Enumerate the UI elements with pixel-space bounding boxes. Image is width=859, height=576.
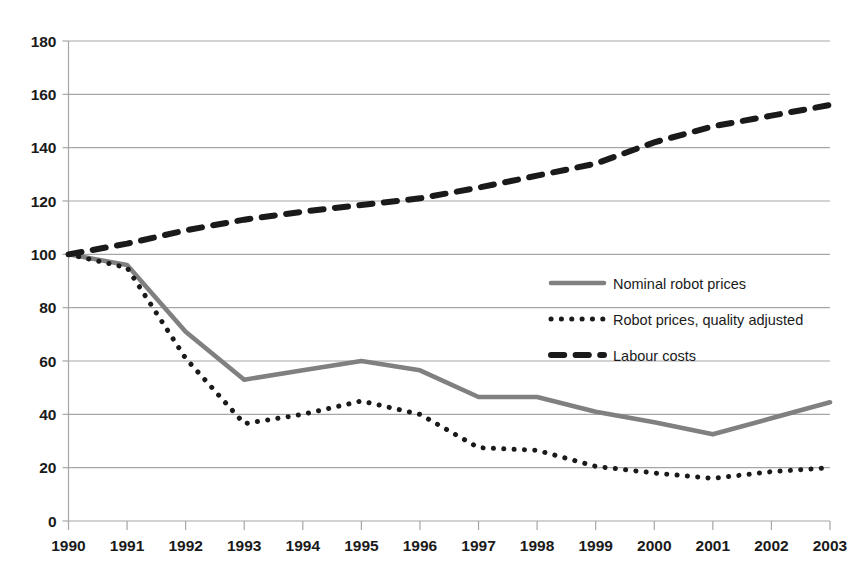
x-axis-tick-label: 2001 bbox=[696, 537, 731, 554]
legend-item-label: Robot prices, quality adjusted bbox=[613, 312, 803, 328]
x-axis-tick-label: 1995 bbox=[344, 537, 379, 554]
x-axis-tick-label: 2002 bbox=[754, 537, 788, 554]
x-axis-tick-label: 1992 bbox=[168, 537, 202, 554]
x-axis-tick-label: 2000 bbox=[637, 537, 671, 554]
x-axis-tick-label: 1999 bbox=[578, 537, 613, 554]
x-axis-tick-label: 1991 bbox=[110, 537, 145, 554]
x-axis-tick-label: 1993 bbox=[227, 537, 262, 554]
x-axis-tick-label: 1996 bbox=[403, 537, 438, 554]
y-axis-tick-label: 120 bbox=[31, 193, 57, 210]
y-axis-tick-label: 180 bbox=[31, 33, 57, 50]
y-axis-tick-labels: 020406080100120140160180 bbox=[31, 33, 57, 530]
series-line-3 bbox=[69, 105, 831, 254]
legend-item-label: Labour costs bbox=[613, 348, 696, 364]
x-axis-tick-label: 2003 bbox=[813, 537, 848, 554]
y-axis-tick-label: 20 bbox=[39, 459, 56, 476]
x-axis-tick-label: 1994 bbox=[286, 537, 321, 554]
data-series bbox=[69, 105, 831, 478]
x-axis-tick-label: 1997 bbox=[461, 537, 495, 554]
y-axis-tick-label: 100 bbox=[31, 246, 57, 263]
y-axis-tick-label: 80 bbox=[39, 299, 56, 316]
line-chart: 020406080100120140160180 199019911992199… bbox=[0, 0, 859, 576]
y-axis-tick-marks bbox=[63, 41, 69, 521]
y-axis-tick-label: 60 bbox=[39, 353, 56, 370]
y-axis-tick-label: 140 bbox=[31, 139, 57, 156]
y-axis-tick-label: 40 bbox=[39, 406, 56, 423]
x-axis-tick-labels: 1990199119921993199419951996199719981999… bbox=[51, 537, 847, 554]
y-axis-tick-label: 0 bbox=[48, 513, 57, 530]
chart-legend: Nominal robot pricesRobot prices, qualit… bbox=[551, 276, 803, 364]
chart-container: 020406080100120140160180 199019911992199… bbox=[0, 0, 859, 576]
legend-item-label: Nominal robot prices bbox=[613, 276, 746, 292]
x-axis-tick-marks bbox=[69, 521, 831, 530]
y-axis-tick-label: 160 bbox=[31, 86, 57, 103]
x-axis-tick-label: 1998 bbox=[520, 537, 555, 554]
x-axis-tick-label: 1990 bbox=[51, 537, 85, 554]
gridlines bbox=[69, 41, 831, 468]
